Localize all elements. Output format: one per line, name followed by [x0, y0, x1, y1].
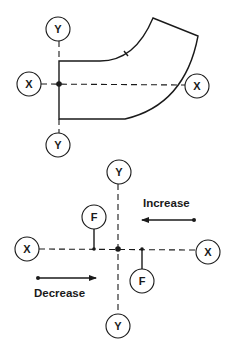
- increase-arrow-tail-dot: [192, 218, 196, 222]
- decrease-label: Decrease: [34, 287, 85, 299]
- svg-text:X: X: [23, 243, 31, 255]
- svg-text:X: X: [193, 80, 201, 92]
- f-upper-left-marker: F: [82, 205, 106, 229]
- svg-text:F: F: [139, 275, 146, 287]
- svg-text:Y: Y: [54, 23, 62, 35]
- lower-origin-dot: [115, 246, 121, 252]
- f-lower-right-marker: F: [130, 269, 154, 293]
- increase-indicator: Increase: [142, 197, 196, 222]
- svg-text:Y: Y: [115, 166, 123, 178]
- diagram-canvas: Y Y X X Y Y: [0, 0, 232, 353]
- f-lower-dot: [140, 247, 144, 251]
- decrease-indicator: Decrease: [34, 276, 96, 299]
- svg-text:Y: Y: [54, 139, 62, 151]
- decrease-arrow-tail-dot: [36, 276, 40, 280]
- svg-text:X: X: [204, 246, 212, 258]
- upper-origin-dot: [56, 81, 62, 87]
- upper-y-bottom-label: Y: [46, 133, 70, 157]
- svg-text:X: X: [25, 78, 33, 90]
- f-upper-dot: [92, 247, 96, 251]
- lower-diagram: Y Y X X F F Increase: [15, 160, 220, 338]
- svg-text:F: F: [91, 211, 98, 223]
- lower-y-bottom-label: Y: [106, 314, 130, 338]
- lower-x-right-label: X: [196, 240, 220, 264]
- svg-text:Y: Y: [114, 320, 122, 332]
- upper-y-top-label: Y: [46, 17, 70, 41]
- lower-x-left-label: X: [15, 237, 39, 261]
- upper-x-axis: [41, 84, 185, 85]
- lower-y-top-label: Y: [107, 160, 131, 184]
- pipe-elbow-outline: [59, 18, 198, 119]
- upper-x-right-label: X: [185, 74, 209, 98]
- increase-label: Increase: [143, 197, 190, 209]
- upper-diagram: Y Y X X: [17, 17, 209, 157]
- upper-x-left-label: X: [17, 72, 41, 96]
